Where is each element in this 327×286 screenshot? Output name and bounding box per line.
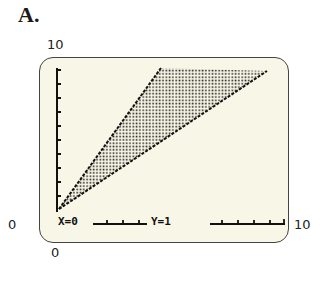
x-axis — [93, 219, 285, 224]
x-readout: X=0 — [58, 215, 78, 228]
graph-plot: X=0 Y=1 — [0, 0, 327, 286]
y-readout: Y=1 — [151, 215, 171, 228]
y-axis — [57, 68, 61, 212]
